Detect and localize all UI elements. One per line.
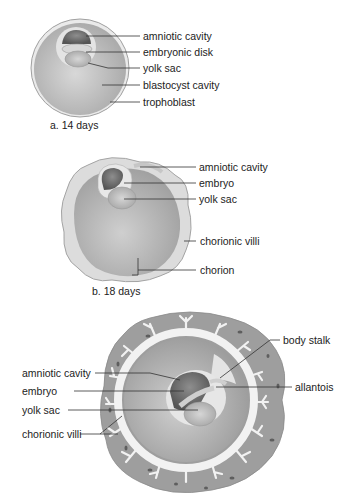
label-allantois-c: allantois — [295, 381, 334, 393]
label-yolk-sac-b: yolk sac — [199, 193, 237, 205]
label-trophoblast-a: trophoblast — [143, 96, 195, 108]
caption-b: b. 18 days — [92, 285, 140, 297]
label-yolk-sac-c: yolk sac — [22, 404, 60, 416]
label-amniotic-cavity-c: amniotic cavity — [22, 367, 91, 379]
panel-a-diagram — [31, 19, 140, 117]
label-embryo-c: embryo — [22, 385, 57, 397]
label-chorionic-villi-b: chorionic villi — [200, 235, 260, 247]
label-embryonic-disk-a: embryonic disk — [143, 46, 213, 58]
label-amniotic-cavity-b: amniotic cavity — [199, 161, 268, 173]
panel-b-diagram — [61, 158, 196, 282]
embryo-development-figure — [0, 0, 359, 494]
label-chorion-b: chorion — [200, 264, 234, 276]
label-embryo-b: embryo — [199, 177, 234, 189]
label-yolk-sac-a: yolk sac — [143, 62, 181, 74]
caption-a: a. 14 days — [50, 119, 98, 131]
label-body-stalk-c: body stalk — [283, 334, 330, 346]
label-blastocyst-cavity-a: blastocyst cavity — [143, 79, 219, 91]
label-amniotic-cavity-a: amniotic cavity — [143, 30, 212, 42]
label-chorionic-villi-c: chorionic villi — [22, 428, 82, 440]
panel-c-diagram — [68, 312, 292, 493]
